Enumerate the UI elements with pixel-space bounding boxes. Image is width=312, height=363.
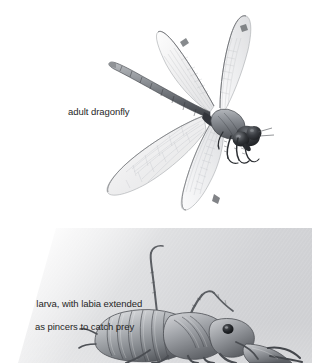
compound-eye-right <box>247 126 262 140</box>
larva-compound-eye <box>223 324 234 334</box>
forewing-right <box>220 16 251 112</box>
caption-larva: larva, with labia extended as pincers to… <box>26 286 142 355</box>
caption-adult-dragonfly: adult dragonfly <box>68 106 130 118</box>
caption-larva-line-2: as pincers to catch prey <box>26 321 142 333</box>
caption-larva-line-1: larva, with labia extended <box>36 298 142 309</box>
figure-root: adult dragonfly <box>0 0 312 363</box>
